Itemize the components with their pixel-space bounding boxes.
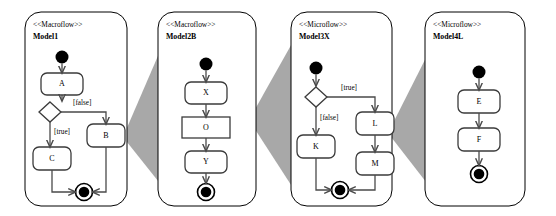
- panel-model3x-name: Model3X: [299, 32, 330, 41]
- panel-model2b-border: [158, 12, 256, 206]
- n3-l-label: L: [373, 119, 378, 128]
- panel-model4l[interactable]: <<Microflow>>Model4LEF: [425, 12, 525, 206]
- n4-f-label: F: [477, 135, 482, 144]
- panel-model3x[interactable]: <<Microflow>>Model3XLKM[true][false]: [291, 12, 394, 206]
- n1-c-label: C: [49, 154, 54, 163]
- n1-b-label: B: [103, 131, 108, 140]
- n2-x-label: X: [203, 88, 209, 97]
- n3-final-final-node-icon[interactable]: [335, 185, 346, 196]
- n2-y-label: Y: [203, 157, 209, 166]
- n4-final-final-node-icon[interactable]: [474, 169, 485, 180]
- panel-model1[interactable]: <<Macroflow>>Model1ABC[false][true]: [25, 12, 127, 206]
- n3-guard-true: [true]: [341, 84, 357, 92]
- n3-init-initial-node-icon[interactable]: [310, 62, 323, 75]
- n2-init-initial-node-icon[interactable]: [200, 58, 213, 71]
- n3-k-label: K: [313, 142, 319, 151]
- panel-model2b-name: Model2B: [166, 32, 196, 41]
- n2-o-label: O: [203, 123, 209, 132]
- n2-final-final-node-icon[interactable]: [201, 187, 212, 198]
- n3-guard-false: [false]: [320, 114, 338, 122]
- panel-model1-border: [25, 12, 127, 206]
- panel-model4l-name: Model4L: [433, 32, 463, 41]
- n1-guard-true: [true]: [54, 128, 70, 136]
- activity-diagram-svg: <<Macroflow>>Model1ABC[false][true]<<Mac…: [0, 0, 556, 216]
- panel-model2b-stereotype: <<Macroflow>>: [166, 20, 216, 29]
- panel-model1-stereotype: <<Macroflow>>: [33, 20, 83, 29]
- panel-model3x-border: [291, 12, 392, 206]
- panel-model3x-stereotype: <<Microflow>>: [299, 20, 347, 29]
- n1-final-final-node-icon[interactable]: [79, 187, 90, 198]
- n4-e-label: E: [477, 97, 482, 106]
- n1-a-label: A: [59, 79, 65, 88]
- n1-guard-false: [false]: [73, 99, 91, 107]
- n1-init-initial-node-icon[interactable]: [56, 51, 69, 64]
- panel-model2b[interactable]: <<Macroflow>>Model2BXOY: [158, 12, 256, 206]
- diagram-canvas: <<Macroflow>>Model1ABC[false][true]<<Mac…: [0, 0, 556, 216]
- n4-init-initial-node-icon[interactable]: [473, 66, 486, 79]
- panel-model4l-stereotype: <<Microflow>>: [433, 20, 481, 29]
- panel-model1-name: Model1: [33, 32, 58, 41]
- n3-m-label: M: [371, 159, 378, 168]
